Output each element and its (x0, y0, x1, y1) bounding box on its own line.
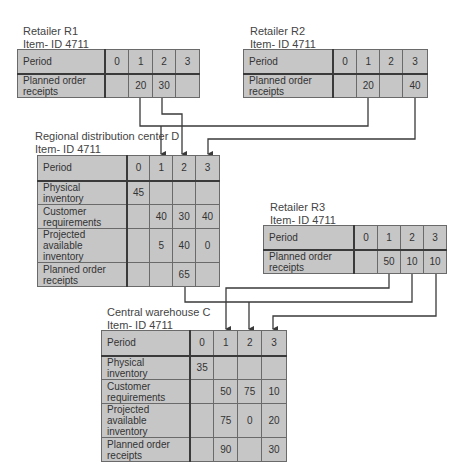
row-label: Planned order receipts (102, 438, 190, 462)
period-1: 1 (150, 156, 173, 181)
cell: 50 (378, 250, 401, 274)
period-1: 1 (129, 50, 153, 74)
c-title: Central warehouse C (107, 306, 210, 319)
row-label: Projected available inventory (102, 404, 190, 438)
period-3: 3 (403, 50, 428, 74)
planned-order-receipts-row: Planned order receipts 65 (38, 263, 220, 287)
period-label: Period (244, 50, 333, 74)
d-caption: Regional distribution center D Item- ID … (35, 130, 179, 156)
cell (176, 74, 200, 98)
period-2: 2 (173, 156, 196, 181)
r3-caption: Retailer R3 Item- ID 4711 (270, 201, 336, 227)
physical-inventory-row: Physical inventory 35 (102, 356, 287, 380)
c-table: Period 0 1 2 3 Physical inventory 35 Cus… (101, 330, 287, 462)
cell (380, 74, 403, 98)
period-3: 3 (262, 331, 287, 356)
customer-requirements-row: Customer requirements 50 75 10 (102, 380, 287, 404)
cell: 10 (424, 250, 447, 274)
period-3: 3 (424, 226, 447, 250)
cell: 0 (196, 229, 220, 263)
projected-available-inventory-row: Projected available inventory 5 40 0 (38, 229, 220, 263)
period-2: 2 (401, 226, 424, 250)
period-0: 0 (354, 226, 378, 250)
period-1: 1 (357, 50, 380, 74)
period-1: 1 (214, 331, 238, 356)
period-2: 2 (153, 50, 176, 74)
period-0: 0 (105, 50, 129, 74)
cell: 0 (238, 404, 262, 438)
cell (214, 356, 238, 380)
r1-title: Retailer R1 (23, 25, 89, 38)
cell (196, 181, 220, 205)
row-label: Physical inventory (38, 181, 127, 205)
cell (150, 263, 173, 287)
customer-requirements-row: Customer requirements 40 30 40 (38, 205, 220, 229)
cell (127, 205, 150, 229)
row-label: Customer requirements (102, 380, 190, 404)
cell (190, 404, 214, 438)
cell: 30 (173, 205, 196, 229)
r3-title: Retailer R3 (270, 201, 336, 214)
r2-caption: Retailer R2 Item- ID 4711 (250, 25, 316, 51)
cell: 20 (357, 74, 380, 98)
cell (238, 356, 262, 380)
cell: 40 (173, 229, 196, 263)
cell (354, 250, 378, 274)
r2-title: Retailer R2 (250, 25, 316, 38)
period-3: 3 (196, 156, 220, 181)
edge-r3-p1-to-c-p1 (226, 273, 389, 329)
cell: 35 (190, 356, 214, 380)
planned-order-receipts-row: Planned order receipts 90 30 (102, 438, 287, 462)
row-label: Planned order receipts (38, 263, 127, 287)
cell: 10 (401, 250, 424, 274)
period-3: 3 (176, 50, 200, 74)
row-label: Physical inventory (102, 356, 190, 380)
projected-available-inventory-row: Projected available inventory 75 0 20 (102, 404, 287, 438)
cell (173, 181, 196, 205)
cell (127, 263, 150, 287)
cell: 90 (214, 438, 238, 462)
period-0: 0 (190, 331, 214, 356)
cell (190, 380, 214, 404)
planned-order-receipts-row: Planned order receipts 20 40 (244, 74, 428, 98)
period-row: Period 0 1 2 3 (244, 50, 428, 74)
period-row: Period 0 1 2 3 (38, 156, 220, 181)
cell (333, 74, 357, 98)
edge-r1-p1-to-d-p1 (140, 97, 368, 126)
d-table: Period 0 1 2 3 Physical inventory 45 Cus… (37, 155, 220, 287)
cell: 40 (196, 205, 220, 229)
cell: 50 (214, 380, 238, 404)
period-label: Period (102, 331, 190, 356)
r1-caption: Retailer R1 Item- ID 4711 (23, 25, 89, 51)
period-1: 1 (378, 226, 401, 250)
cell: 30 (153, 74, 176, 98)
r1-table: Period 0 1 2 3 Planned order receipts 20… (17, 49, 200, 98)
period-label: Period (38, 156, 127, 181)
period-row: Period 0 1 2 3 (264, 226, 447, 250)
physical-inventory-row: Physical inventory 45 (38, 181, 220, 205)
row-label: Customer requirements (38, 205, 127, 229)
cell (150, 181, 173, 205)
period-label: Period (264, 226, 354, 250)
row-label: Planned order receipts (264, 250, 354, 274)
r2-table: Period 0 1 2 3 Planned order receipts 20… (243, 49, 428, 98)
cell (190, 438, 214, 462)
cell (238, 438, 262, 462)
cell: 75 (238, 380, 262, 404)
cell: 45 (127, 181, 150, 205)
period-0: 0 (333, 50, 357, 74)
cell: 75 (214, 404, 238, 438)
cell: 30 (262, 438, 287, 462)
cell: 65 (173, 263, 196, 287)
c-caption: Central warehouse C Item- ID 4711 (107, 306, 210, 332)
row-label: Projected available inventory (38, 229, 127, 263)
period-row: Period 0 1 2 3 (18, 50, 200, 74)
period-2: 2 (238, 331, 262, 356)
r3-table: Period 0 1 2 3 Planned order receipts 50… (263, 225, 447, 274)
cell (262, 356, 287, 380)
period-label: Period (18, 50, 105, 74)
cell (105, 74, 129, 98)
cell (127, 229, 150, 263)
planned-order-receipts-row: Planned order receipts 20 30 (18, 74, 200, 98)
period-2: 2 (380, 50, 403, 74)
